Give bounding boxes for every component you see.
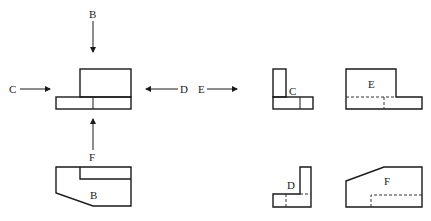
view-f: F <box>346 167 422 207</box>
view-c-label: C <box>289 85 296 97</box>
arrow-c-label: C <box>9 83 16 95</box>
arrow-f-label: F <box>89 151 95 163</box>
view-b: B <box>56 167 131 206</box>
arrow-f: F <box>89 119 95 163</box>
view-e: E <box>346 69 422 109</box>
arrow-e-label: E <box>198 83 205 95</box>
arrow-e: E <box>198 83 237 95</box>
view-c: C <box>273 69 313 109</box>
arrow-b: B <box>89 8 96 52</box>
arrow-d: D <box>146 83 188 95</box>
view-b-label: B <box>90 189 97 201</box>
view-d-label: D <box>287 179 295 191</box>
view-e-label: E <box>368 78 375 90</box>
view-d: D <box>273 167 311 207</box>
arrow-c: C <box>9 83 50 95</box>
arrow-b-label: B <box>89 8 96 20</box>
view-f-label: F <box>384 175 390 187</box>
projection-diagram: B C D E F C E B <box>0 0 431 221</box>
main-object-view <box>56 69 131 109</box>
arrow-d-label: D <box>180 83 188 95</box>
